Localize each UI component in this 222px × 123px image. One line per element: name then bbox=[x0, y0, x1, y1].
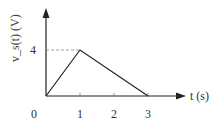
x-tick-label-2: 2 bbox=[111, 108, 117, 120]
waveform-line bbox=[46, 50, 148, 96]
x-tick-label-3: 3 bbox=[145, 108, 151, 120]
y-axis-arrow-icon bbox=[43, 8, 50, 18]
x-tick-label-1: 1 bbox=[77, 108, 83, 120]
y-tick-label-4: 4 bbox=[30, 44, 36, 56]
y-axis-label: v_s(t) (V) bbox=[8, 14, 23, 62]
x-axis-arrow-icon bbox=[176, 93, 186, 100]
waveform-plot bbox=[0, 0, 222, 123]
x-axis-label: t (s) bbox=[190, 90, 209, 102]
x-tick-label-0: 0 bbox=[31, 108, 37, 120]
